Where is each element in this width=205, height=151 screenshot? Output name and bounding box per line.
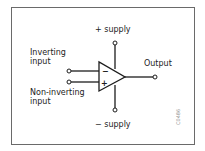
plus-supply-terminal [113, 41, 117, 45]
minus-supply-terminal [113, 108, 117, 112]
noninverting-input-label-line1: Non-inverting [30, 88, 85, 97]
output-terminal [153, 75, 157, 79]
inverting-input-label-line1: Inverting [30, 48, 66, 57]
inverting-sign: − [102, 67, 109, 76]
noninverting-input-terminal [67, 80, 71, 84]
noninverting-sign: + [101, 79, 108, 88]
inverting-input-terminal [67, 69, 71, 73]
output-label: Output [144, 59, 172, 68]
minus-supply-label: − supply [95, 120, 131, 129]
op-amp-diagram: − + + supply − supply Inverting input No… [0, 0, 205, 151]
figure-code: C0486 [175, 109, 181, 125]
noninverting-input-label-line2: input [30, 97, 51, 106]
plus-supply-label: + supply [95, 25, 131, 34]
inverting-input-label-line2: input [30, 57, 51, 66]
